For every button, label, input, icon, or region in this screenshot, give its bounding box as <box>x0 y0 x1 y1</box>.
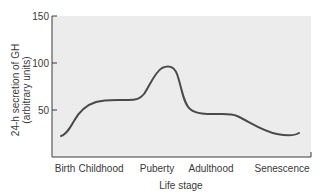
y-axis-title: 24-h secretion of GH (arbitrary units) <box>10 44 32 136</box>
x-label-senescence: Senescence <box>254 163 309 174</box>
y-axis-title-line1: 24-h secretion of GH <box>10 44 21 136</box>
x-label-birth: Birth <box>55 163 76 174</box>
y-tick-label-150: 150 <box>32 11 49 22</box>
y-tick-label-100: 100 <box>32 58 49 69</box>
x-label-adulthood: Adulthood <box>188 163 233 174</box>
x-label-childhood: Childhood <box>78 163 123 174</box>
growth-hormone-chart: 150 100 50 24-h secretion of GH (arbitra… <box>0 0 321 195</box>
x-axis-title: Life stage <box>159 180 203 191</box>
y-axis-title-line2: (arbitrary units) <box>21 56 32 123</box>
x-label-puberty: Puberty <box>140 163 174 174</box>
y-tick-label-50: 50 <box>38 105 50 116</box>
